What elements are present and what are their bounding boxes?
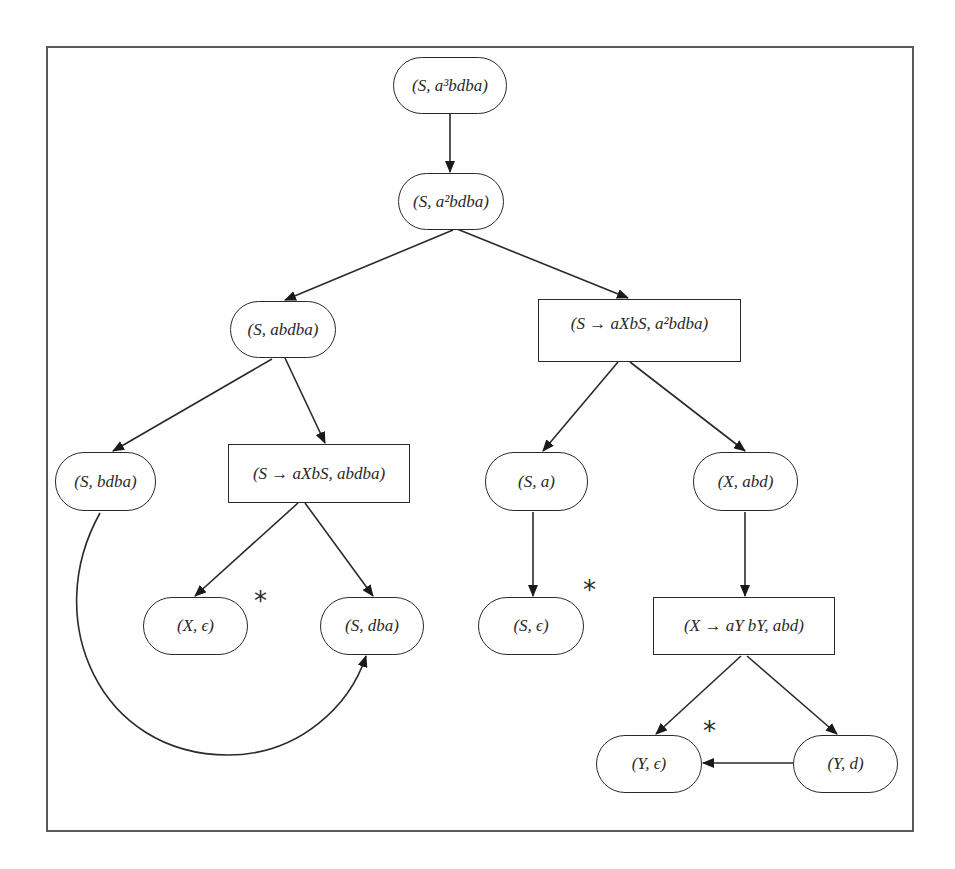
node-label: (X, ϵ) [177, 616, 214, 636]
asterisk-marker-icon: * [254, 588, 267, 614]
edge-n3-n6 [285, 358, 325, 443]
edge-n4-n7 [543, 362, 618, 451]
node-label: (S, a) [518, 472, 555, 492]
node-n14: (Y, d) [793, 735, 898, 793]
node-label: (S, a³bdba) [412, 76, 488, 96]
node-n5: (S, bdba) [55, 452, 156, 511]
node-label: (S, abdba) [248, 320, 319, 340]
node-label: (Y, d) [827, 754, 863, 774]
edge-n2-n3 [285, 230, 453, 300]
node-n2: (S, a²bdba) [398, 173, 504, 230]
node-n11: (S, ϵ) [478, 597, 584, 655]
node-n4: (S → aXbS, a²bdba) [538, 299, 741, 362]
node-n3: (S, abdba) [230, 301, 336, 358]
edge-n6-n9 [195, 503, 298, 596]
node-label: (S → aXbS, a²bdba) [571, 314, 708, 334]
edge-n12-n14 [747, 656, 837, 734]
node-n12: (X → aY bY, abd) [653, 597, 835, 655]
node-label: (Y, ϵ) [632, 754, 667, 774]
edge-n3-n5 [113, 359, 272, 451]
node-label: (X, abd) [718, 472, 774, 492]
node-label: (S → aXbS, abdba) [253, 464, 385, 484]
edge-n12-n13 [656, 656, 741, 734]
node-n1: (S, a³bdba) [393, 57, 507, 114]
node-n8: (X, abd) [693, 452, 798, 511]
node-n6: (S → aXbS, abdba) [228, 444, 410, 503]
node-label: (S, dba) [345, 616, 399, 636]
node-n9: (X, ϵ) [143, 597, 248, 655]
node-label: (S, bdba) [74, 472, 136, 492]
node-n7: (S, a) [485, 452, 588, 511]
node-label: (S, ϵ) [513, 616, 548, 636]
edge-n2-n4 [457, 229, 628, 298]
edge-n4-n8 [630, 362, 745, 451]
node-n13: (Y, ϵ) [596, 735, 702, 793]
node-n10: (S, dba) [320, 597, 424, 655]
node-label: (X → aY bY, abd) [684, 616, 804, 636]
edge-n6-n10 [305, 503, 373, 596]
asterisk-marker-icon: * [583, 577, 596, 603]
asterisk-marker-icon: * [703, 718, 716, 744]
node-label: (S, a²bdba) [413, 192, 489, 212]
